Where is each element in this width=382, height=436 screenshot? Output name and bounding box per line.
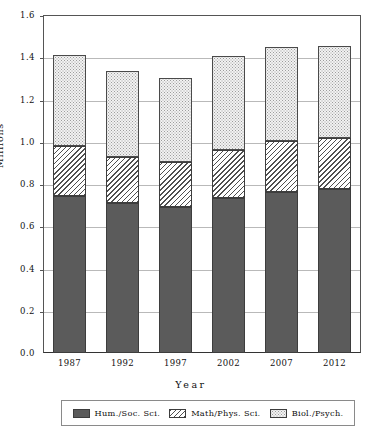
legend-label: Biol./Psych.: [292, 408, 344, 418]
stacked-bar-chart: 0.0 0.2 0.4 0.6 0.8 1.0 1.2 1.4 1.6 Mill…: [0, 0, 382, 436]
bar-segment[interactable]: [53, 55, 86, 146]
y-tick-label: 0.0: [20, 348, 35, 358]
bar-series-layer: [43, 15, 361, 353]
bar-segment[interactable]: [106, 157, 139, 203]
bar-group[interactable]: [53, 15, 86, 353]
y-tick-label: 1.2: [20, 95, 35, 105]
y-tick-label: 0.8: [20, 179, 35, 189]
x-tick-label: 2007: [270, 358, 293, 368]
bar-segment[interactable]: [159, 207, 192, 353]
chart-legend: Hum./Soc. Sci. Math/Phys. Sci. Biol./Psy…: [61, 400, 355, 426]
legend-item-hum-soc-sci: Hum./Soc. Sci.: [73, 408, 160, 418]
bar-segment[interactable]: [265, 47, 298, 141]
legend-item-math-phys-sci: Math/Phys. Sci.: [169, 408, 260, 418]
bar-segment[interactable]: [212, 56, 245, 150]
y-tick-label: 1.0: [20, 137, 35, 147]
y-tick-label: 1.6: [20, 10, 35, 20]
x-axis-title: Year: [0, 379, 382, 390]
bar-segment[interactable]: [106, 71, 139, 157]
x-tick-label: 1987: [58, 358, 81, 368]
bar-group[interactable]: [159, 15, 192, 353]
bar-segment[interactable]: [53, 146, 86, 196]
y-tick-label: 0.6: [20, 221, 35, 231]
bar-segment[interactable]: [53, 196, 86, 353]
legend-label: Math/Phys. Sci.: [191, 408, 260, 418]
y-axis-tick-labels: 0.0 0.2 0.4 0.6 0.8 1.0 1.2 1.4 1.6: [0, 15, 41, 353]
x-tick-label: 2012: [323, 358, 346, 368]
bar-segment[interactable]: [265, 192, 298, 353]
bar-segment[interactable]: [159, 78, 192, 161]
bar-segment[interactable]: [159, 162, 192, 207]
bar-group[interactable]: [106, 15, 139, 353]
legend-swatch-icon: [270, 409, 287, 418]
bar-segment[interactable]: [212, 198, 245, 353]
x-tick-label: 1997: [164, 358, 187, 368]
y-tick-label: 1.4: [20, 52, 35, 62]
y-tick-label: 0.2: [20, 306, 35, 316]
y-tick-label: 0.4: [20, 264, 35, 274]
legend-item-biol-psych: Biol./Psych.: [270, 408, 344, 418]
bar-segment[interactable]: [318, 138, 351, 190]
bar-segment[interactable]: [212, 150, 245, 198]
x-axis-tick-labels: 198719921997200220072012: [43, 358, 361, 372]
bar-group[interactable]: [265, 15, 298, 353]
legend-swatch-icon: [169, 409, 186, 418]
bar-group[interactable]: [212, 15, 245, 353]
bar-group[interactable]: [318, 15, 351, 353]
legend-label: Hum./Soc. Sci.: [95, 408, 160, 418]
x-tick-label: 2002: [217, 358, 240, 368]
x-tick-label: 1992: [111, 358, 134, 368]
bar-segment[interactable]: [318, 46, 351, 138]
bar-segment[interactable]: [106, 203, 139, 353]
bar-segment[interactable]: [318, 189, 351, 353]
legend-swatch-icon: [73, 409, 90, 418]
bar-segment[interactable]: [265, 141, 298, 193]
y-axis-title: Millions: [0, 123, 5, 168]
